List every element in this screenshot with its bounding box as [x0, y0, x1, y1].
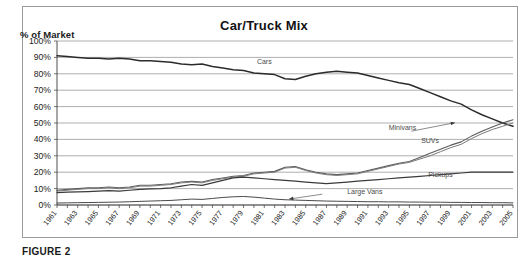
y-tick-label: 60% — [34, 102, 52, 112]
line-chart-plot: 0%10%20%30%40%50%60%70%80%90%100% 196119… — [0, 0, 528, 261]
y-tick-label: 80% — [34, 69, 52, 79]
y-tick-label: 50% — [34, 118, 52, 128]
y-tick-label: 10% — [34, 184, 52, 194]
y-tick-label: 90% — [34, 52, 52, 62]
series-label-cars: Cars — [257, 58, 272, 65]
y-tick-label: 20% — [34, 167, 52, 177]
x-tick-label: 1973 — [166, 209, 183, 228]
y-tick-label: 40% — [34, 134, 52, 144]
x-tick-label: 1983 — [269, 209, 286, 228]
x-tick-label: 1975 — [186, 209, 203, 228]
y-tick-label: 70% — [34, 85, 52, 95]
x-tick-label: 1995 — [394, 209, 411, 228]
x-tick-label: 1997 — [414, 209, 431, 228]
series-label-minivans: Minivans — [389, 124, 417, 131]
y-tick-label: 30% — [34, 151, 52, 161]
x-tick-label: 1985 — [290, 209, 307, 228]
y-tick-label: 100% — [29, 36, 51, 46]
x-tick-label: 1965 — [83, 209, 100, 228]
leader-arrow-minivans — [450, 122, 454, 126]
series-label-pickups: Pickups — [428, 171, 453, 179]
series-lines-group — [57, 56, 513, 203]
leader-line-large-vans — [289, 194, 322, 199]
series-label-suvs: SUVs — [421, 137, 439, 144]
x-tick-label: 1963 — [62, 209, 79, 228]
series-line-cars — [57, 56, 513, 127]
x-tick-label: 1993 — [373, 209, 390, 228]
x-axis-tick-labels: 1961196319651967196919711973197519771979… — [41, 209, 514, 228]
series-label-large-vans: Large Vans — [347, 188, 383, 196]
series-line-minivans — [57, 120, 513, 191]
x-tick-label: 1991 — [352, 209, 369, 228]
y-tick-label: 0% — [39, 200, 52, 210]
series-line-large-vans — [57, 196, 513, 203]
y-axis-tick-labels: 0%10%20%30%40%50%60%70%80%90%100% — [29, 36, 51, 210]
x-tick-label: 1979 — [228, 209, 245, 228]
x-tick-label: 1999 — [435, 209, 452, 228]
x-tick-label: 1969 — [124, 209, 141, 228]
x-tick-label: 1989 — [332, 209, 349, 228]
x-tick-label: 2003 — [477, 209, 494, 228]
figure-caption: FIGURE 2 — [22, 246, 71, 257]
x-tick-label: 2005 — [497, 209, 514, 228]
leader-line-minivans — [411, 123, 455, 132]
x-tick-label: 1977 — [207, 209, 224, 228]
x-tick-label: 1987 — [311, 209, 328, 228]
figure-container: % of Market Car/Truck Mix 0%10%20%30%40%… — [0, 0, 528, 261]
x-tick-label: 1961 — [41, 209, 58, 228]
x-tick-label: 1971 — [145, 209, 162, 228]
x-tick-label: 2001 — [456, 209, 473, 228]
x-tick-label: 1967 — [104, 209, 121, 228]
x-tick-label: 1981 — [249, 209, 266, 228]
